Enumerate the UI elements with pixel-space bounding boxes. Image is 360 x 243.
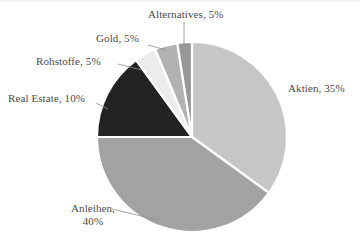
pie-chart-canvas — [0, 0, 360, 243]
pie-chart-figure: Aktien, 35% Alternatives, 5% Gold, 5% Ro… — [0, 0, 360, 243]
pie-label-real-estate: Real Estate, 10% — [8, 92, 85, 105]
pie-label-alternatives: Alternatives, 5% — [148, 8, 224, 21]
pie-label-rohstoffe: Rohstoffe, 5% — [36, 55, 101, 68]
pie-label-anleihen: Anleihen, 40% — [62, 202, 124, 228]
pie-label-gold: Gold, 5% — [96, 32, 139, 45]
pie-label-anleihen-line1: Anleihen, — [62, 202, 124, 215]
pie-slices — [97, 42, 287, 232]
pie-label-aktien: Aktien, 35% — [288, 82, 345, 95]
pie-label-anleihen-line2: 40% — [62, 215, 124, 228]
